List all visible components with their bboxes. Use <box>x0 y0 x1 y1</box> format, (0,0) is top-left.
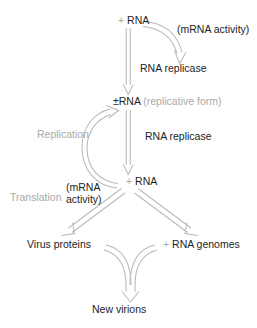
plus-sign: + <box>126 175 132 187</box>
node-label: RNA <box>135 175 157 187</box>
node-rna-genomes: + RNA genomes <box>163 238 240 250</box>
node-plus-rna-top: + RNA <box>118 14 149 26</box>
arrow-plus-rna-to-pm-rna <box>123 28 133 95</box>
annotation-mrna-activity-mid: (mRNA activity) <box>66 182 114 206</box>
node-label: RNA <box>119 95 141 107</box>
annotation-mrna-activity-top: (mRNA activity) <box>177 23 249 35</box>
annotation-line-2: activity) <box>66 194 114 206</box>
annotation-line-1: (mRNA <box>66 182 114 194</box>
plus-sign: + <box>163 238 169 250</box>
node-label: RNA genomes <box>172 238 240 250</box>
node-qualifier: (replicative form) <box>143 95 221 107</box>
node-label: RNA <box>127 14 149 26</box>
node-plus-rna-mid: + RNA <box>126 175 157 187</box>
annotation-rna-replicase-1: RNA replicase <box>140 62 207 74</box>
arrow-virus-proteins-to-new-virions <box>104 245 131 285</box>
arrow-replication-loop <box>82 106 119 189</box>
plus-sign: + <box>118 14 124 26</box>
node-virus-proteins: Virus proteins <box>27 238 91 250</box>
rna-virus-replication-diagram: .ln{fill:none;stroke:#b9b9b9;stroke-widt… <box>0 0 257 328</box>
arrowhead-new-virions <box>122 285 139 302</box>
annotation-rna-replicase-2: RNA replicase <box>145 130 212 142</box>
arrow-to-rna-genomes <box>135 189 199 236</box>
annotation-translation: Translation <box>10 191 62 203</box>
annotation-replication: Replication <box>37 128 89 140</box>
node-new-virions: New virions <box>92 303 146 315</box>
arrow-rna-genomes-to-new-virions <box>130 245 157 285</box>
node-pm-rna: ±RNA (replicative form) <box>113 95 221 107</box>
arrow-layer: .ln{fill:none;stroke:#b9b9b9;stroke-widt… <box>0 0 257 328</box>
arrow-pm-rna-to-plus-rna <box>123 110 133 175</box>
